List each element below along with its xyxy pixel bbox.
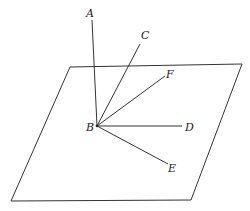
- label-E: E: [167, 162, 176, 175]
- label-D: D: [184, 121, 194, 134]
- label-A: A: [85, 7, 94, 20]
- label-B: B: [85, 121, 94, 134]
- ray-BE: [97, 126, 168, 164]
- label-F: F: [165, 68, 174, 81]
- ray-BF: [97, 76, 165, 126]
- label-C: C: [141, 29, 150, 42]
- ray-BC: [97, 44, 140, 126]
- point-B: [96, 125, 99, 128]
- plane: [11, 64, 242, 201]
- geometry-diagram: A B C F D E: [0, 0, 250, 211]
- ray-BA: [92, 20, 97, 126]
